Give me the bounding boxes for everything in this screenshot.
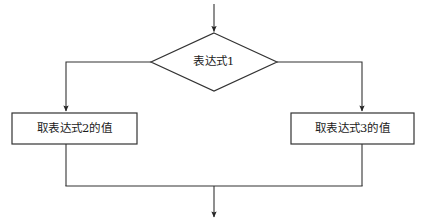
decision-diamond xyxy=(151,33,277,91)
flowchart-canvas: 表达式1 取表达式2的值 取表达式3的值 xyxy=(0,0,426,223)
process-left-box xyxy=(12,113,137,144)
decision-left-branch-connector xyxy=(66,62,151,111)
process-right-box xyxy=(291,113,414,144)
flowchart-graphics xyxy=(0,0,426,223)
decision-right-branch-connector xyxy=(277,62,362,111)
